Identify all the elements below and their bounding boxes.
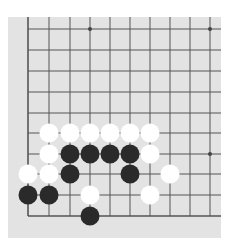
white-stone[interactable] bbox=[141, 124, 160, 143]
white-stone[interactable] bbox=[141, 186, 160, 205]
black-stone[interactable] bbox=[101, 145, 120, 164]
black-stone[interactable] bbox=[61, 145, 80, 164]
white-stone[interactable] bbox=[141, 145, 160, 164]
white-stone[interactable] bbox=[101, 124, 120, 143]
white-stone[interactable] bbox=[40, 165, 59, 184]
black-stone[interactable] bbox=[19, 186, 38, 205]
black-stone[interactable] bbox=[81, 145, 100, 164]
go-board[interactable] bbox=[8, 17, 221, 238]
white-stone[interactable] bbox=[19, 165, 38, 184]
black-stone[interactable] bbox=[61, 165, 80, 184]
white-stone[interactable] bbox=[161, 165, 180, 184]
white-stone[interactable] bbox=[81, 186, 100, 205]
star-point bbox=[208, 152, 212, 156]
white-stone[interactable] bbox=[81, 124, 100, 143]
white-stone[interactable] bbox=[61, 124, 80, 143]
white-stone[interactable] bbox=[40, 145, 59, 164]
star-point bbox=[208, 27, 212, 31]
black-stone[interactable] bbox=[81, 207, 100, 226]
white-stone[interactable] bbox=[121, 124, 140, 143]
black-stone[interactable] bbox=[40, 186, 59, 205]
black-stone[interactable] bbox=[121, 145, 140, 164]
white-stone[interactable] bbox=[40, 124, 59, 143]
star-point bbox=[88, 27, 92, 31]
black-stone[interactable] bbox=[121, 165, 140, 184]
